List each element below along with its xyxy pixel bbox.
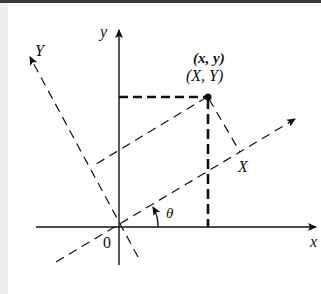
x-axis-label: x (309, 233, 317, 250)
rotated-x-axis-label: X (237, 158, 249, 175)
origin-label: 0 (103, 234, 111, 251)
rotated-x-axis (56, 119, 295, 262)
rotation-diagram: y x Y X 0 θ (x, y) (X, Y) (0, 0, 321, 294)
point-label-xy: (x, y) (193, 50, 225, 67)
angle-label: θ (166, 205, 174, 221)
point-marker (205, 94, 212, 101)
projection-to-rotated-y-axis (93, 97, 207, 166)
angle-arc (153, 207, 158, 227)
point-label-XY: (X, Y) (186, 67, 223, 85)
rotated-y-axis-label: Y (35, 42, 46, 59)
y-axis-label: y (98, 23, 108, 41)
projection-to-rotated-x-axis (209, 99, 240, 152)
